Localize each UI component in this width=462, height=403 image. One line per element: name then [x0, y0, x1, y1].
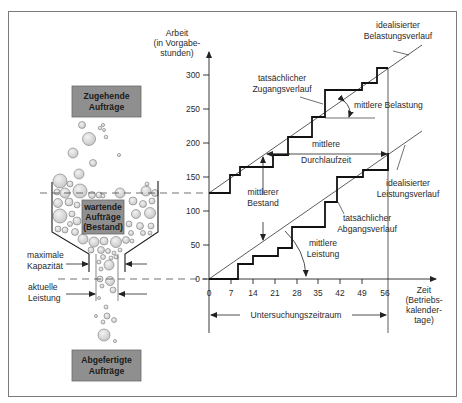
current-output-label-1: aktuelle	[28, 282, 58, 292]
completed-orders-label-2: Aufträge	[89, 366, 125, 376]
svg-text:200: 200	[186, 138, 200, 148]
ideal-load-label-2: Belastungsverlauf	[364, 31, 433, 41]
svg-text:49: 49	[357, 288, 367, 298]
waiting-orders-label-3: (Bestand)	[83, 222, 123, 232]
svg-text:50: 50	[191, 240, 201, 250]
max-capacity-label-2: Kapazität	[27, 261, 63, 271]
svg-text:Zeit: Zeit	[417, 285, 432, 295]
study-period-label: Untersuchungszeitraum	[251, 310, 342, 320]
incoming-order-bubbles	[68, 122, 121, 180]
waiting-orders-label-2: Aufträge	[85, 212, 121, 222]
mean-load-label: mittlere Belastung	[354, 100, 423, 110]
incoming-orders-label-2: Aufträge	[89, 102, 125, 112]
svg-text:(Betriebs-: (Betriebs-	[405, 295, 442, 305]
ideal-load-label-1: idealisierter	[376, 20, 420, 30]
svg-text:Arbeit: Arbeit	[166, 28, 189, 38]
mean-throughput-label-1: mittlere	[312, 139, 340, 149]
svg-text:stunden): stunden)	[160, 48, 194, 58]
y-axis-label: Arbeit (in Vorgabe- stunden)	[154, 28, 201, 58]
mean-load-angle-arrow	[344, 101, 350, 117]
incoming-orders-label-1: Zugehende	[84, 91, 130, 101]
mean-output-label-1: mittlere	[309, 238, 337, 248]
svg-text:21: 21	[270, 288, 280, 298]
mean-inventory-label-2: Bestand	[247, 198, 279, 208]
x-axis	[209, 279, 436, 284]
svg-text:100: 100	[186, 206, 200, 216]
y-axis-ticks: 0 50 100 150 200 250 300	[186, 70, 200, 284]
actual-input-label-2: Zugangsverlauf	[252, 84, 312, 94]
funnel-throughput-diagram: Zugehende Aufträge	[0, 0, 462, 403]
incoming-orders-box: Zugehende Aufträge	[72, 86, 141, 117]
mean-output-label-2: Leistung	[307, 249, 340, 259]
svg-text:kalender-: kalender-	[406, 305, 442, 315]
ideal-output-label-2: Leistungsverlauf	[377, 189, 440, 199]
svg-text:7: 7	[229, 288, 234, 298]
svg-text:(in Vorgabe-: (in Vorgabe-	[154, 38, 201, 48]
x-axis-ticks: 0 7 14 21 28 35 42 49 56	[207, 288, 390, 298]
completed-orders-label-1: Abgefertigte	[81, 355, 132, 365]
completed-orders-box: Abgefertigte Aufträge	[72, 350, 141, 381]
svg-text:0: 0	[195, 274, 200, 284]
svg-text:150: 150	[186, 172, 200, 182]
svg-text:56: 56	[380, 288, 390, 298]
mean-output-angle-arrow	[285, 231, 306, 276]
mean-inventory-label-1: mittlerer	[247, 187, 278, 197]
svg-text:35: 35	[313, 288, 323, 298]
current-output-label-2: Leistung	[28, 293, 61, 303]
actual-output-label-1: tatsächlicher	[343, 213, 391, 223]
ideal-load-leader	[393, 51, 409, 55]
actual-input-label-1: tatsächlicher	[258, 73, 306, 83]
ideal-load-line	[209, 45, 422, 193]
waiting-orders-box: wartende Aufträge (Bestand)	[82, 200, 124, 234]
svg-text:28: 28	[292, 288, 302, 298]
waiting-orders-label-1: wartende	[83, 202, 122, 212]
svg-text:300: 300	[186, 70, 200, 80]
actual-input-leader	[300, 97, 323, 104]
actual-output-leader	[338, 202, 344, 214]
mean-throughput-label-2: Durchlaufzeit	[301, 155, 352, 165]
svg-text:42: 42	[335, 288, 345, 298]
svg-text:tage): tage)	[414, 315, 434, 325]
svg-text:14: 14	[248, 288, 258, 298]
svg-text:0: 0	[207, 288, 212, 298]
x-axis-label: Zeit (Betriebs- kalender- tage)	[405, 285, 442, 325]
actual-output-label-2: Abgangsverlauf	[337, 224, 397, 234]
max-capacity-label-1: maximale	[27, 250, 64, 260]
ideal-output-label-1: idealisierter	[386, 178, 430, 188]
ideal-output-leader	[397, 145, 405, 170]
svg-text:250: 250	[186, 104, 200, 114]
completed-order-bubbles	[95, 297, 117, 343]
